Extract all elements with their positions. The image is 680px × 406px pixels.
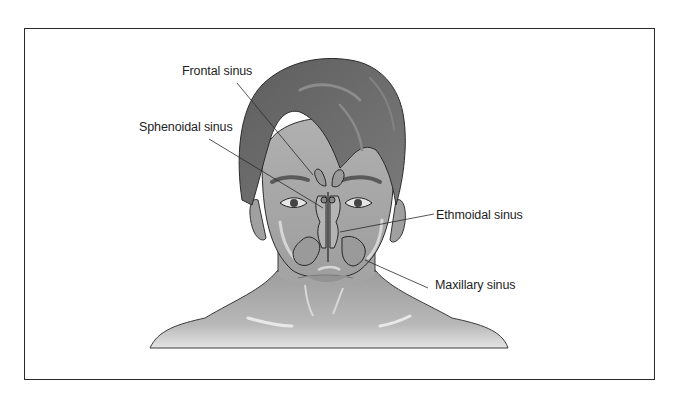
label-sphenoidal-sinus: Sphenoidal sinus bbox=[139, 120, 233, 134]
label-frontal-sinus: Frontal sinus bbox=[182, 64, 252, 78]
label-ethmoidal-sinus: Ethmoidal sinus bbox=[436, 208, 523, 222]
head-illustration bbox=[0, 0, 680, 406]
label-maxillary-sinus: Maxillary sinus bbox=[435, 278, 515, 292]
